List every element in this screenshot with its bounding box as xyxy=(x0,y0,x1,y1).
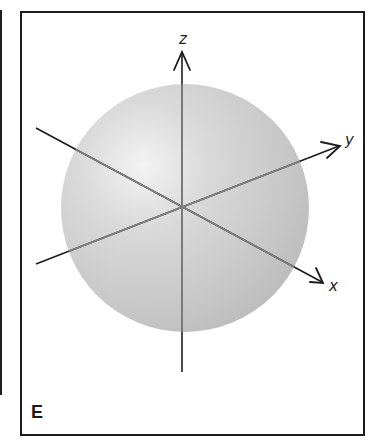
y-axis-label: y xyxy=(345,133,354,148)
x-axis-label: x xyxy=(329,279,338,294)
x-arrowhead-icon xyxy=(310,268,323,283)
panel-label: E xyxy=(31,403,43,421)
sphere-axes-diagram xyxy=(0,0,374,448)
z-axis-label: z xyxy=(179,32,187,47)
